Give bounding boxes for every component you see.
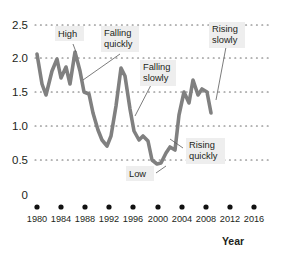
y-tick-label-2-5: 2.5 xyxy=(12,19,28,31)
x-tick-dot-2012 xyxy=(227,204,232,209)
x-tick-dot-1984 xyxy=(58,204,63,209)
x-axis-title: Year xyxy=(222,235,244,247)
y-tick-label-0-5: 0.5 xyxy=(12,154,28,166)
x-tick-label-1984: 1984 xyxy=(51,214,71,224)
annotation-falling-slowly-line2: slowly xyxy=(143,73,169,83)
x-tick-label-1996: 1996 xyxy=(123,214,143,224)
x-tick-label-2000: 2000 xyxy=(148,214,168,224)
annotation-low-label: Low xyxy=(129,169,146,179)
annotation-high: High xyxy=(55,26,84,41)
data-series-line xyxy=(37,52,211,164)
annotation-high-label: High xyxy=(58,29,77,39)
y-tick-label-2-0: 2.0 xyxy=(12,52,28,64)
x-tick-dot-1996 xyxy=(130,204,135,209)
x-axis-labels: 1980 1984 1988 1992 1996 2000 2004 2008 … xyxy=(27,214,264,224)
x-tick-label-1988: 1988 xyxy=(75,214,95,224)
annotation-falling-slowly: Falling slowly xyxy=(140,60,176,86)
x-tick-dot-1988 xyxy=(82,204,87,209)
y-tick-label-0: 0 xyxy=(22,189,28,201)
annotation-falling-quickly: Falling quickly xyxy=(101,26,139,52)
chart-canvas: 2.5 2.0 1.5 1.0 0.5 0 High Falling qu xyxy=(0,0,284,258)
x-tick-dot-2008 xyxy=(203,204,208,209)
x-tick-label-2008: 2008 xyxy=(196,214,216,224)
x-tick-dot-2000 xyxy=(155,204,160,209)
y-axis-labels: 2.5 2.0 1.5 1.0 0.5 0 xyxy=(12,19,28,201)
annotation-rising-quickly: Rising quickly xyxy=(186,138,225,164)
line-chart: 2.5 2.0 1.5 1.0 0.5 0 High Falling qu xyxy=(0,0,284,258)
x-tick-label-1980: 1980 xyxy=(27,214,47,224)
x-tick-label-2012: 2012 xyxy=(220,214,240,224)
x-tick-dot-2016 xyxy=(251,204,256,209)
annotation-falling-quickly-line2: quickly xyxy=(104,39,133,49)
annotation-rising-quickly-line1: Rising xyxy=(189,140,215,150)
y-tick-label-1-0: 1.0 xyxy=(12,120,28,132)
leader-low xyxy=(156,166,166,173)
x-tick-dot-1992 xyxy=(106,204,111,209)
x-tick-label-1992: 1992 xyxy=(99,214,119,224)
x-tick-label-2016: 2016 xyxy=(244,214,264,224)
x-tick-dot-1980 xyxy=(34,204,39,209)
annotation-rising-quickly-line2: quickly xyxy=(189,151,218,161)
annotation-rising-slowly-line2: slowly xyxy=(212,35,238,45)
annotation-low: Low xyxy=(126,166,154,181)
x-axis-tick-dots xyxy=(34,204,256,209)
annotation-falling-quickly-line1: Falling xyxy=(104,28,131,38)
x-tick-label-2004: 2004 xyxy=(172,214,192,224)
leader-falling-slowly xyxy=(135,85,151,116)
x-tick-dot-2004 xyxy=(179,204,184,209)
y-tick-label-1-5: 1.5 xyxy=(12,86,28,98)
annotation-rising-slowly: Rising slowly xyxy=(209,22,245,48)
annotation-falling-slowly-line1: Falling xyxy=(143,62,170,72)
annotation-rising-slowly-line1: Rising xyxy=(212,24,238,34)
